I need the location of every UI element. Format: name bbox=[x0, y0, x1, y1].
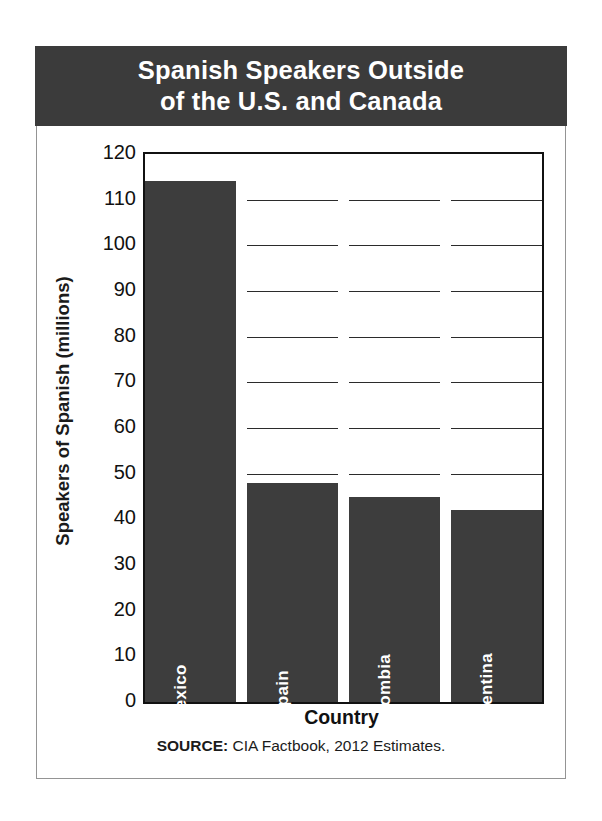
chart-title-line-2: of the U.S. and Canada bbox=[160, 86, 442, 117]
y-axis-title: Speakers of Spanish (millions) bbox=[52, 201, 74, 621]
bar-gap bbox=[440, 154, 451, 702]
bar-gap bbox=[338, 154, 349, 702]
bar-slot: Spain bbox=[247, 154, 338, 702]
bar: Colombia bbox=[349, 497, 440, 703]
bar-slot: Colombia bbox=[349, 154, 440, 702]
y-tick-label: 100 bbox=[84, 232, 136, 255]
y-tick-label: 70 bbox=[84, 369, 136, 392]
x-axis-title: Country bbox=[143, 706, 540, 729]
bar: Spain bbox=[247, 483, 338, 702]
y-axis-tick-labels: 0102030405060708090100110120 bbox=[78, 152, 136, 700]
chart-title-line-1: Spanish Speakers Outside bbox=[138, 55, 465, 86]
bar: Argentina bbox=[451, 510, 542, 702]
y-tick-label: 20 bbox=[84, 597, 136, 620]
bar-slot: Mexico bbox=[145, 154, 236, 702]
y-tick-label: 110 bbox=[84, 186, 136, 209]
y-tick-label: 40 bbox=[84, 506, 136, 529]
plot-area: MexicoSpainColombiaArgentina bbox=[143, 152, 544, 704]
y-tick-label: 10 bbox=[84, 643, 136, 666]
source-text: CIA Factbook, 2012 Estimates. bbox=[232, 737, 445, 754]
chart-title-banner: Spanish Speakers Outside of the U.S. and… bbox=[35, 46, 567, 126]
y-tick-label: 30 bbox=[84, 552, 136, 575]
chart-page: Spanish Speakers Outside of the U.S. and… bbox=[0, 0, 602, 821]
y-tick-label: 50 bbox=[84, 460, 136, 483]
bar-slot: Argentina bbox=[451, 154, 542, 702]
y-tick-label: 120 bbox=[84, 141, 136, 164]
y-tick-label: 80 bbox=[84, 323, 136, 346]
y-tick-label: 0 bbox=[84, 689, 136, 712]
source-note: SOURCE: CIA Factbook, 2012 Estimates. bbox=[36, 737, 566, 755]
bar-series: MexicoSpainColombiaArgentina bbox=[145, 154, 542, 702]
bar: Mexico bbox=[145, 181, 236, 702]
source-prefix: SOURCE: bbox=[157, 737, 228, 754]
bar-gap bbox=[236, 154, 247, 702]
y-tick-label: 60 bbox=[84, 415, 136, 438]
y-tick-label: 90 bbox=[84, 278, 136, 301]
